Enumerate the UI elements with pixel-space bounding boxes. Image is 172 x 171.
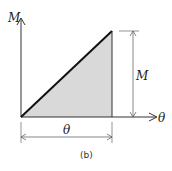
caption: (b) — [80, 150, 93, 160]
x-axis-label: θ — [158, 111, 166, 125]
horizontal-dimension-label: θ — [63, 123, 71, 137]
vertical-dimension-label: M — [135, 69, 149, 83]
moment-rotation-diagram: M θ M θ (b) — [0, 0, 172, 171]
diagram-canvas: M θ M θ (b) — [0, 0, 172, 171]
y-axis-label: M — [7, 11, 21, 25]
